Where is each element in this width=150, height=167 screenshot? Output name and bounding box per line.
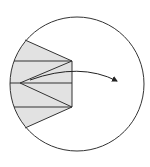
- shaded-region: [0, 40, 72, 128]
- geometric-diagram: [0, 0, 150, 167]
